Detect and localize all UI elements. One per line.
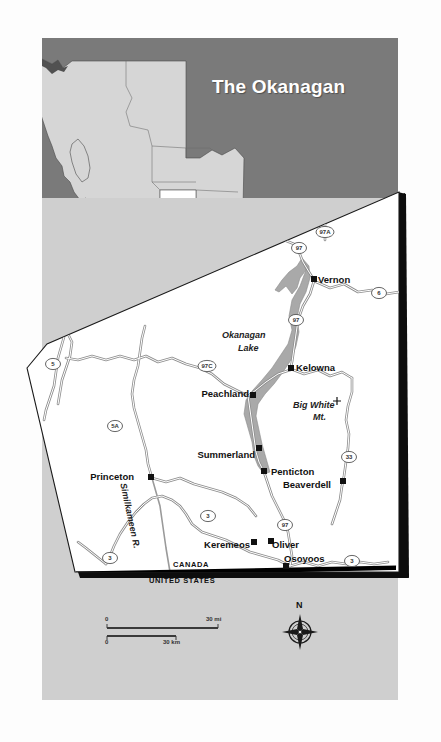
inset-coastline-shadow: [36, 56, 68, 74]
highway-shield-label: 97C: [201, 363, 213, 369]
highway-shield-97-9: 97: [278, 519, 293, 530]
city-marker-summerland: [256, 445, 262, 451]
highway-shield-5a-6: 5A: [108, 420, 123, 431]
map-title: The Okanagan: [212, 76, 392, 98]
city-label-keremeos: Keremeos: [0, 539, 250, 550]
highway-shield-label: 97: [296, 245, 303, 251]
scale-mi-end: 30 mi: [206, 616, 221, 622]
map-figure: 97A9769797C55A3339733 The Okanagan Verno…: [0, 0, 441, 742]
city-marker-keremeos: [251, 539, 257, 545]
highway-shield-label: 97A: [319, 229, 331, 235]
map-canvas: 97A9769797C55A3339733: [0, 0, 441, 742]
highway-shield-3-10: 3: [103, 552, 118, 563]
city-marker-vernon: [311, 276, 317, 282]
city-marker-penticton: [261, 468, 267, 474]
highway-shield-97a-0: 97A: [316, 226, 334, 237]
highway-shield-6-2: 6: [372, 287, 387, 298]
highway-shield-5-5: 5: [46, 358, 61, 369]
city-label-osoyoos: Osoyoos: [284, 553, 325, 564]
highway-shield-33-7: 33: [342, 451, 357, 462]
city-label-kelowna: Kelowna: [296, 362, 335, 373]
compass-rose: [282, 614, 318, 650]
city-label-princeton: Princeton: [0, 471, 134, 482]
highway-shield-97-3: 97: [289, 314, 304, 325]
city-label-oliver: Oliver: [272, 539, 299, 550]
scale-bar: [107, 624, 218, 640]
highway-shield-3-8: 3: [201, 510, 216, 521]
city-label-summerland: Summerland: [0, 449, 255, 460]
city-label-peachland: Peachland: [0, 388, 249, 399]
inset-okanagan-highlight: [160, 190, 196, 230]
map-panel-shadow-right: [398, 192, 409, 578]
compass-north-label: N: [296, 600, 303, 610]
label-okanagan-lake-line1: Okanagan: [222, 330, 266, 340]
highway-shield-97-1: 97: [292, 242, 307, 253]
city-marker-beaverdell: [340, 478, 346, 484]
city-label-vernon: Vernon: [318, 274, 350, 285]
highway-shield-3-11: 3: [345, 555, 360, 566]
highway-shield-label: 97: [282, 522, 289, 528]
highway-shield-label: 5A: [111, 423, 119, 429]
scale-mi-start: 0: [105, 616, 108, 622]
label-big-white-line1: Big White: [293, 400, 335, 410]
label-canada: CANADA: [173, 560, 209, 569]
label-united-states: UNITED STATES: [149, 576, 215, 585]
city-marker-kelowna: [288, 365, 294, 371]
city-marker-peachland: [250, 392, 256, 398]
highway-shield-label: 97: [293, 317, 300, 323]
scale-km-start: 0: [105, 639, 108, 645]
label-big-white-line2: Mt.: [313, 412, 326, 422]
label-okanagan-lake-line2: Lake: [238, 343, 259, 353]
highway-shield-97c-4: 97C: [198, 360, 216, 371]
highway-shield-label: 33: [346, 454, 353, 460]
city-label-penticton: Penticton: [271, 466, 314, 477]
scale-km-end: 30 km: [163, 639, 180, 645]
inset-drop-shadow: [166, 224, 206, 228]
